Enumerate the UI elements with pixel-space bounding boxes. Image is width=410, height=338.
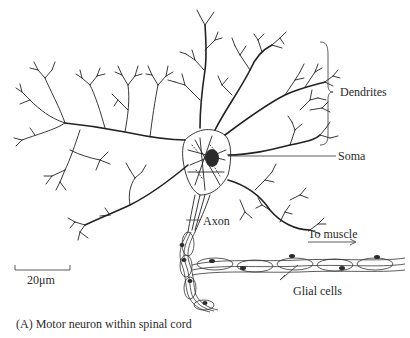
label-dendrites: Dendrites (340, 86, 387, 98)
figure-caption: (A) Motor neuron within spinal cord (16, 317, 192, 332)
neuron-illustration (0, 0, 410, 338)
dendrites-right-icon (228, 116, 338, 234)
label-to-muscle: To muscle (308, 228, 357, 240)
axon-icon (180, 232, 406, 312)
nucleus-icon (205, 149, 219, 167)
label-glial-cells: Glial cells (293, 285, 342, 297)
dendrites-icon (14, 10, 340, 240)
scale-bar (15, 265, 70, 270)
neuron-diagram: Dendrites Soma Axon To muscle Glial cell… (0, 0, 410, 338)
label-axon: Axon (203, 215, 230, 227)
scale-bar-label: 20μm (27, 274, 55, 286)
dendrites-bracket (320, 42, 333, 145)
label-soma: Soma (338, 150, 365, 162)
